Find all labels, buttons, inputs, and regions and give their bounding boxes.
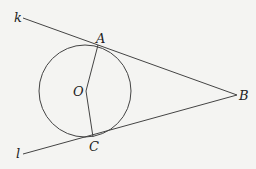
radius-oa	[86, 45, 98, 91]
line-l	[23, 95, 237, 154]
label-point-b: B	[238, 88, 249, 103]
label-point-a: A	[95, 31, 105, 46]
label-line-k: k	[14, 10, 22, 25]
geometry-diagram: k l A B C O	[0, 0, 256, 169]
label-point-o: O	[73, 84, 84, 99]
label-point-c: C	[89, 139, 99, 154]
label-line-l: l	[16, 146, 20, 161]
radius-oc	[86, 91, 93, 137]
circle-o	[39, 45, 131, 137]
